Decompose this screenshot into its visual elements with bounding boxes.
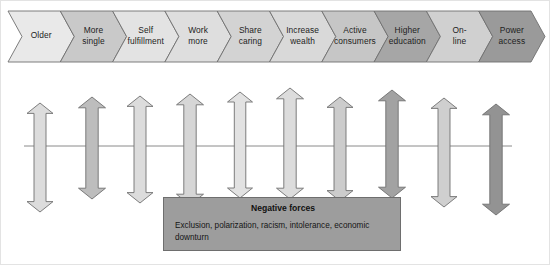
negative-forces-title: Negative forces [164,203,402,213]
force-arrow-9[interactable] [431,98,457,207]
force-arrow-4[interactable] [177,94,204,205]
force-arrow-10[interactable] [483,104,510,215]
force-arrow-6[interactable] [277,88,304,199]
chevron-group [8,11,545,62]
force-arrow-7[interactable] [327,97,353,201]
force-arrow-1[interactable] [27,103,53,212]
force-arrow-5[interactable] [228,92,253,198]
negative-forces-box: Negative forces Exclusion, polarization,… [163,197,401,251]
forces-diagram: OlderMore singleSelf fulfillmentWork mor… [0,0,550,265]
arrows-group [27,88,510,215]
negative-forces-body: Exclusion, polarization, racism, intoler… [175,220,393,243]
force-arrow-2[interactable] [79,97,106,199]
force-arrow-8[interactable] [379,90,406,198]
force-arrow-3[interactable] [127,96,153,203]
